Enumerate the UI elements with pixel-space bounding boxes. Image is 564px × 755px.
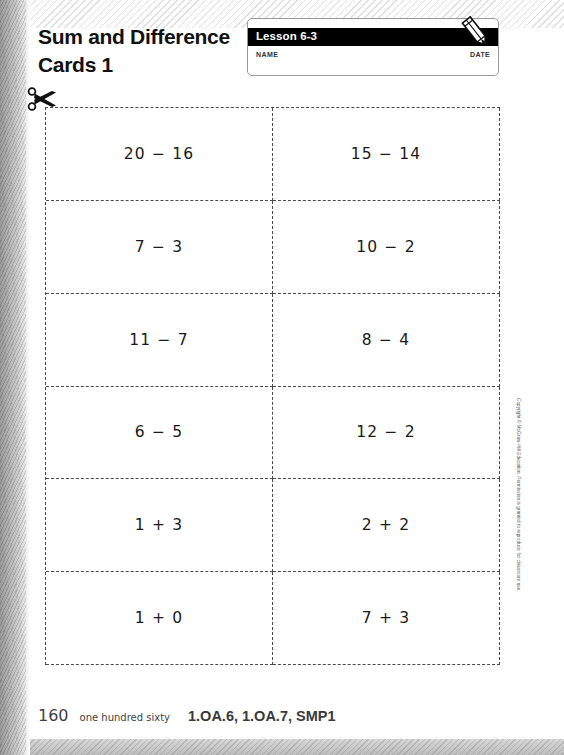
pencil-icon <box>455 14 497 54</box>
card-cell[interactable]: 1 + 3 <box>46 479 273 572</box>
scan-hatch-bottom <box>0 739 564 755</box>
book-spine-shadow <box>0 0 26 755</box>
card-cell[interactable]: 15 − 14 <box>273 108 500 201</box>
card-cell[interactable]: 12 − 2 <box>273 387 500 480</box>
card-cell[interactable]: 20 − 16 <box>46 108 273 201</box>
lesson-number-label: Lesson 6-3 <box>256 30 317 42</box>
card-cell[interactable]: 1 + 0 <box>46 572 273 665</box>
book-spine-edge <box>26 0 30 755</box>
scissors-icon <box>26 86 60 112</box>
cut-apart-card-grid: 20 − 16 15 − 14 7 − 3 10 − 2 11 − 7 8 − … <box>45 107 500 665</box>
card-cell[interactable]: 6 − 5 <box>46 387 273 480</box>
card-cell[interactable]: 11 − 7 <box>46 294 273 387</box>
page-number: 160 <box>38 706 69 725</box>
page-title: Sum and Difference Cards 1 <box>38 23 253 78</box>
card-cell[interactable]: 10 − 2 <box>273 201 500 294</box>
card-cell[interactable]: 7 − 3 <box>46 201 273 294</box>
page-number-words: one hundred sixty <box>80 712 170 723</box>
card-cell[interactable]: 8 − 4 <box>273 294 500 387</box>
page-footer: 160 one hundred sixty 1.OA.6, 1.OA.7, SM… <box>38 706 336 725</box>
card-cell[interactable]: 7 + 3 <box>273 572 500 665</box>
worksheet-page: Sum and Difference Cards 1 Lesson 6-3 NA… <box>0 0 564 755</box>
standards-codes: 1.OA.6, 1.OA.7, SMP1 <box>188 708 335 724</box>
card-cell[interactable]: 2 + 2 <box>273 479 500 572</box>
copyright-notice: Copyright © McGraw-Hill Education. Permi… <box>516 398 521 648</box>
name-field-label: NAME <box>256 51 278 58</box>
